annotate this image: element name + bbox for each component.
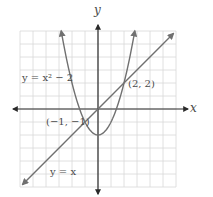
y-axis-label: y (93, 3, 101, 17)
line-label: y = x (49, 166, 76, 177)
intersection-label-2-2: (2, 2) (128, 78, 155, 89)
x-axis-label: x (190, 101, 197, 115)
graph-figure: x y y = x² − 2 y = x (2, 2) (−1, −1) (0, 0, 213, 197)
parabola-label: y = x² − 2 (21, 72, 73, 83)
intersection-label-neg1-neg1: (−1, −1) (46, 116, 90, 127)
labels: x y y = x² − 2 y = x (2, 2) (−1, −1) (21, 3, 197, 177)
